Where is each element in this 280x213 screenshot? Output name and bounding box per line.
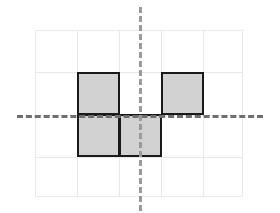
figure-canvas	[0, 0, 280, 213]
upper-right-square	[161, 72, 204, 115]
grid-line-vertical	[242, 30, 243, 197]
grid-line-vertical	[35, 30, 36, 197]
lower-left-square	[77, 114, 120, 157]
vertical-dashed-axis	[139, 7, 142, 211]
upper-left-square	[77, 72, 120, 115]
